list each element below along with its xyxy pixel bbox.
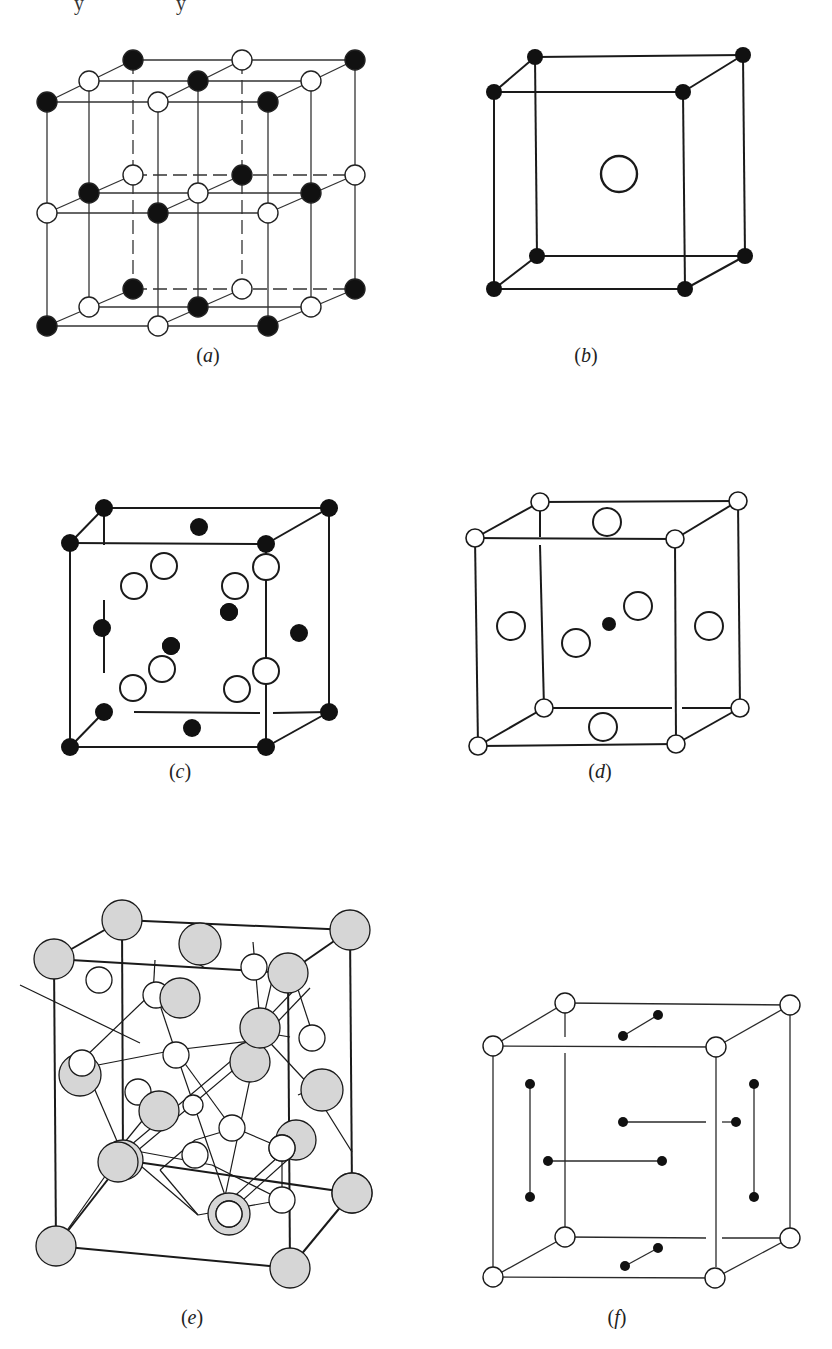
panel-b-cscl-cell: (b) bbox=[420, 0, 832, 380]
panel-a-nacl-lattice: (a) bbox=[0, 0, 420, 380]
caption-a: (a) bbox=[196, 344, 219, 367]
panel-e-complex-cell: (e) bbox=[20, 860, 420, 1349]
dumbbell-cell-diagram bbox=[460, 930, 832, 1349]
caption-f: (f) bbox=[608, 1306, 627, 1329]
cscl-cell-diagram bbox=[420, 0, 832, 380]
caption-d: (d) bbox=[588, 760, 611, 783]
panel-c-zincblende-cell: (c) bbox=[30, 440, 400, 840]
zincblende-cell-diagram bbox=[30, 440, 400, 840]
caption-b-letter: b bbox=[581, 344, 591, 366]
caption-c-letter: c bbox=[176, 760, 185, 782]
caption-e: (e) bbox=[181, 1306, 203, 1329]
panel-d-perovskite-cell: (d) bbox=[440, 440, 780, 840]
complex-cell-diagram bbox=[20, 860, 420, 1349]
caption-d-letter: d bbox=[595, 760, 605, 782]
caption-e-letter: e bbox=[188, 1306, 197, 1328]
caption-c: (c) bbox=[169, 760, 191, 783]
caption-b: (b) bbox=[574, 344, 597, 367]
caption-a-letter: a bbox=[203, 344, 213, 366]
panel-f-dumbbell-cell: (f) bbox=[460, 930, 832, 1349]
nacl-lattice-diagram bbox=[0, 0, 420, 380]
